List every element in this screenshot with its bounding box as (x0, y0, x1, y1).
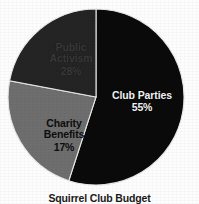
slice-label-public-activism-name: Public Activism (36, 42, 106, 65)
slice-label-club-parties-name: Club Parties (104, 90, 180, 101)
chart-canvas: Club Parties 55% Public Activism 28% Cha… (0, 0, 199, 204)
slice-label-club-parties: Club Parties 55% (104, 90, 180, 114)
slice-label-charity-benefits-value: 17% (29, 142, 99, 153)
pie-chart-screenshot: Club Parties 55% Public Activism 28% Cha… (0, 0, 199, 204)
chart-title: Squirrel Club Budget (0, 192, 199, 204)
slice-label-public-activism-value: 28% (36, 66, 106, 77)
slice-label-charity-benefits: Charity Benefits 17% (29, 118, 99, 153)
slice-label-club-parties-value: 55% (104, 102, 180, 113)
slice-label-public-activism: Public Activism 28% (36, 42, 106, 77)
slice-label-charity-benefits-name: Charity Benefits (29, 118, 99, 141)
